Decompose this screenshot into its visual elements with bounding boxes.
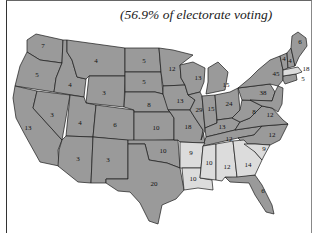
label-georgia: 14 <box>245 161 253 169</box>
label-ohio: 24 <box>226 100 234 108</box>
label-west-virginia: 8 <box>252 108 256 116</box>
label-mississippi: 10 <box>206 159 214 167</box>
label-maine: 6 <box>298 38 302 46</box>
state-florida <box>225 175 274 214</box>
label-new-york: 45 <box>273 70 281 78</box>
label-utah: 4 <box>78 119 82 127</box>
label-california: 13 <box>25 124 33 132</box>
label-tennessee: 12 <box>226 135 234 143</box>
label-florida: 6 <box>261 187 265 195</box>
label-montana: 4 <box>94 57 98 65</box>
label-kentucky: 13 <box>219 123 227 131</box>
label-alabama: 12 <box>224 163 232 171</box>
label-massachusetts: 18 <box>303 65 311 73</box>
label-pennsylvania: 38 <box>260 89 268 97</box>
label-arkansas: 9 <box>189 149 193 157</box>
label-washington: 7 <box>41 42 45 50</box>
label-south-dakota: 5 <box>142 78 146 86</box>
label-vermont: 4 <box>282 55 286 63</box>
label-north-dakota: 5 <box>142 57 146 65</box>
label-minnesota: 12 <box>169 65 177 73</box>
label-idaho: 4 <box>68 81 72 89</box>
label-indiana: 15 <box>208 105 216 113</box>
label-michigan: 15 <box>223 81 231 89</box>
label-nevada: 3 <box>50 111 54 119</box>
label-oklahoma: 10 <box>160 147 168 155</box>
label-new-mexico: 3 <box>106 156 110 164</box>
label-missouri: 18 <box>185 123 193 131</box>
label-wisconsin: 13 <box>195 74 203 82</box>
label-illinois: 29 <box>196 106 204 114</box>
label-texas: 20 <box>151 180 159 188</box>
state-michigan <box>206 62 228 94</box>
label-north-carolina: 12 <box>269 131 277 139</box>
label-louisiana: 10 <box>190 175 198 183</box>
label-kansas: 10 <box>153 124 161 132</box>
label-new-hampshire: 4 <box>288 57 292 65</box>
label-colorado: 6 <box>113 121 117 129</box>
label-virginia: 12 <box>267 111 275 119</box>
label-iowa: 13 <box>177 97 185 105</box>
label-oregon: 5 <box>35 71 39 79</box>
label-wyoming: 3 <box>102 89 106 97</box>
label-arizona: 3 <box>76 155 80 163</box>
label-nebraska: 8 <box>147 101 151 109</box>
label-connecticut-rhode-island: 5 <box>301 75 305 83</box>
us-electoral-map: 7 5 13 4 3 4 3 4 6 3 3 5 5 8 10 10 20 12… <box>0 0 316 233</box>
label-south-carolina: 9 <box>262 145 266 153</box>
